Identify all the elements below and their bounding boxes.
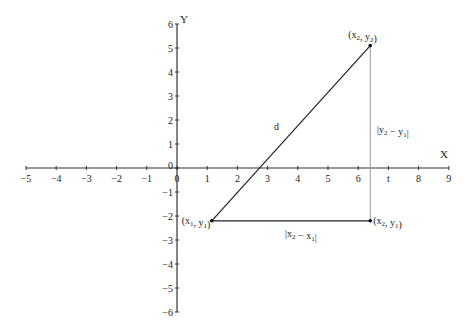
y-tick-label: 1: [168, 139, 173, 150]
triangle: [210, 44, 372, 223]
y-tick-label: 5: [168, 43, 173, 54]
y-tick-label: 6: [168, 19, 173, 30]
x-tick-label: −3: [81, 173, 92, 184]
label-vertical-leg: |y2 − y1|: [377, 124, 409, 139]
x-axis-title: X: [440, 148, 448, 160]
x-tick-label: 6: [356, 173, 361, 184]
x-tick-label: 2: [235, 173, 240, 184]
x-tick-label: 8: [416, 173, 421, 184]
y-tick-label: −6: [162, 307, 173, 318]
point-p1: [210, 219, 214, 223]
label-point-x2-y2: (x2, y2): [348, 29, 377, 45]
label-point-x2-y1: (x2, y1): [373, 215, 402, 231]
x-tick-label: −5: [21, 173, 32, 184]
y-tick-label: −4: [162, 259, 173, 270]
x-tick-label: 1: [205, 173, 210, 184]
x-tick-label: 9: [446, 173, 451, 184]
segment-p1-p2: [212, 46, 371, 221]
x-tick-label: 5: [326, 173, 331, 184]
y-tick-label: −3: [162, 235, 173, 246]
x-tick-label: 4: [295, 173, 300, 184]
x-tick-label: 0: [175, 173, 180, 184]
y-tick-label: 4: [168, 67, 173, 78]
point-p3: [368, 219, 372, 223]
y-axis-title: Y: [180, 13, 188, 25]
x-tick-label: −2: [111, 173, 122, 184]
label-horizontal-leg: |x2 − x1|: [285, 228, 317, 243]
y-tick-label-zero: 0: [168, 160, 173, 171]
coordinate-plane: −5−4−3−2−10123456t89−6−5−4−3−2−11234560 …: [0, 0, 471, 332]
y-tick-label: 2: [168, 115, 173, 126]
y-tick-label: −5: [162, 283, 173, 294]
x-tick-label: t: [387, 173, 390, 184]
x-tick-label: −4: [51, 173, 62, 184]
x-tick-label: −1: [141, 173, 152, 184]
y-tick-label: −2: [162, 211, 173, 222]
distance-formula-diagram: −5−4−3−2−10123456t89−6−5−4−3−2−11234560 …: [0, 0, 471, 332]
y-tick-label: −1: [162, 187, 173, 198]
label-distance-d: d: [274, 121, 279, 132]
y-tick-label: 3: [168, 91, 173, 102]
labels: XY(x2, y2)(x1, y1)(x2, y1)d|y2 − y1||x2 …: [180, 13, 448, 243]
point-p2: [368, 44, 372, 48]
label-point-x1-y1: (x1, y1): [182, 215, 211, 231]
x-tick-label: 3: [265, 173, 270, 184]
